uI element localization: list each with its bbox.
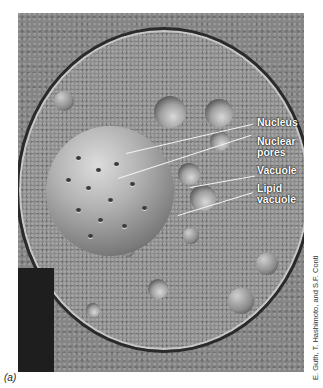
nuclear-pore [76, 156, 81, 160]
nuclear-pore [130, 182, 135, 186]
vacuole-shape [178, 163, 200, 185]
vacuole-shape [205, 99, 233, 127]
lipid-bump [256, 253, 278, 275]
dark-shadow-region [18, 268, 54, 372]
nuclear-pore [142, 206, 147, 210]
nuclear-pore [66, 178, 71, 182]
nuclear-pore [86, 186, 91, 190]
label-lipid-vacuole-line2: vacuole [257, 194, 296, 205]
micrograph-image: Nucleus Nuclear pores Vacuole Lipid vacu… [18, 13, 304, 372]
label-nuclear-pores: Nuclear pores [257, 136, 296, 158]
lipid-bump [54, 91, 74, 111]
vacuole-shape [154, 96, 186, 128]
vacuole-shape [86, 303, 100, 317]
label-lipid-vacuole: Lipid vacuole [257, 183, 296, 205]
nuclear-pore [88, 234, 93, 238]
nuclear-pore [122, 224, 127, 228]
nuclear-pore [114, 162, 119, 166]
nuclear-pore [76, 208, 81, 212]
lipid-bump [228, 288, 254, 314]
panel-label: (a) [4, 372, 16, 383]
label-vacuole: Vacuole [257, 165, 297, 176]
vacuole-shape [148, 279, 168, 299]
nuclear-pore [98, 218, 103, 222]
photo-credit: E. Guth, T. Hashimoto, and S.F. Conti [311, 255, 320, 380]
nuclear-pore [96, 168, 101, 172]
label-nuclear-pores-line2: pores [257, 147, 296, 158]
nuclear-pore [108, 198, 113, 202]
lipid-bump [183, 228, 199, 244]
label-nucleus: Nucleus [257, 117, 298, 128]
